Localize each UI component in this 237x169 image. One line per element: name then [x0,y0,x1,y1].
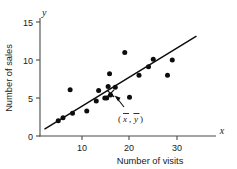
y-tick-label-10: 10 [23,56,33,66]
x-axis-title: Number of visits [117,156,184,166]
annotation-close-paren: ) [140,114,143,124]
y-tick-label-0: 0 [28,132,33,142]
data-point [106,84,111,89]
data-point [61,115,66,120]
data-point [113,85,118,90]
annotation-ybar: y [133,114,138,124]
y-tick-label-15: 15 [23,18,33,28]
data-point [107,71,112,76]
x-axis-symbol: x [219,125,225,136]
annotation-xbar: x [122,114,127,124]
x-tick-label-10: 10 [77,143,87,153]
data-point [146,64,151,69]
data-point [122,50,127,55]
data-point [170,58,175,63]
chart-canvas: 15 10 5 0 10 20 30 y x Number of sales N… [0,0,237,169]
y-axis-title: Number of sales [4,44,14,112]
data-point [70,111,75,116]
y-tick-label-5: 5 [28,94,33,104]
data-point [84,108,89,113]
data-point [94,99,99,104]
data-point [165,73,170,78]
data-point [68,87,73,92]
annotation-comma: , [129,114,131,124]
y-tick-group [36,22,40,136]
scatter-plot-figure: 15 10 5 0 10 20 30 y x Number of sales N… [0,0,237,169]
data-point [137,73,142,78]
data-point [127,95,132,100]
x-tick-label-20: 20 [124,143,134,153]
data-point [56,118,61,123]
y-axis-symbol: y [41,7,47,18]
x-tick-label-30: 30 [172,143,182,153]
mean-annotation-label: ( x , y ) [118,114,143,125]
data-point [96,88,101,93]
annotation-open-paren: ( [118,114,121,124]
data-point [151,57,156,62]
x-tick-group [82,136,177,140]
